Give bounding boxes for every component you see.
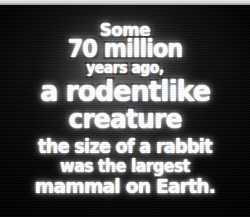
meme-image: Some 70 million years ago, a rodentlike … <box>0 0 250 217</box>
caption-overlay: Some 70 million years ago, a rodentlike … <box>0 0 250 217</box>
caption-line-mammal-on-earth: mammal on Earth. <box>9 176 242 196</box>
top-light-strip <box>0 0 250 5</box>
caption-line-creature: creature <box>9 105 242 132</box>
caption-line-a-rodentlike: a rodentlike <box>9 77 242 106</box>
caption-line-seventy-million: 70 million <box>9 37 242 61</box>
caption-line-the-size-of-a-rabbit: the size of a rabbit <box>9 137 242 156</box>
caption-line-was-the-largest: was the largest <box>9 158 242 175</box>
